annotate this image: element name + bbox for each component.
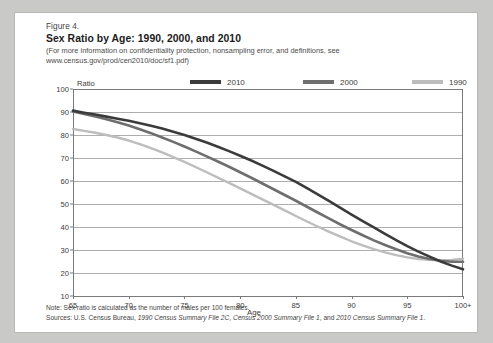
y-axis-title: Ratio [77, 79, 95, 88]
figure-note: Note: Sex ratio is calculated as the num… [46, 303, 466, 313]
legend-swatch-2010 [190, 80, 221, 83]
figure-card: Figure 4. Sex Ratio by Age: 1990, 2000, … [14, 12, 478, 333]
sources-prefix: Sources: U.S. Census Bureau, [46, 314, 138, 321]
figure-subtitle-line-1: (For more information on confidentiality… [46, 46, 446, 56]
figure-subtitle-line-2: www.census.gov/prod/cen2010/doc/sf1.pdf) [46, 56, 446, 66]
legend-label-2010: 2010 [227, 78, 245, 87]
x-axis-tickmark-90 [352, 296, 353, 299]
figure-notes: Note: Sex ratio is calculated as the num… [46, 303, 466, 322]
x-axis-tickmark-100+ [463, 296, 464, 299]
y-axis-tick-50: 50 [61, 200, 69, 209]
figure-subtitle: (For more information on confidentiality… [46, 46, 446, 65]
legend-label-1990: 1990 [449, 78, 467, 87]
y-axis-tick-10: 10 [61, 292, 69, 301]
x-axis-tickmark-75 [184, 296, 185, 299]
legend-item-1990: 1990 [412, 76, 467, 88]
series-line-1990 [73, 129, 463, 260]
y-axis-tick-100: 100 [56, 85, 69, 94]
x-axis-tickmark-80 [240, 296, 241, 299]
y-axis-tick-60: 60 [61, 177, 69, 186]
chart-legend: 201020001990 [190, 76, 480, 90]
y-axis-tick-80: 80 [61, 131, 69, 140]
legend-swatch-1990 [412, 80, 443, 83]
series-line-2010 [73, 111, 463, 270]
figure-number: Figure 4. [46, 22, 79, 31]
legend-swatch-2000 [303, 80, 334, 83]
figure-title: Sex Ratio by Age: 1990, 2000, and 2010 [46, 33, 241, 44]
y-axis-tick-90: 90 [61, 108, 69, 117]
sources-item-3: 2010 Census Summary File 1 [336, 314, 423, 321]
x-axis-tickmark-70 [129, 296, 130, 299]
y-axis-tick-30: 30 [61, 246, 69, 255]
series-line-2000 [73, 112, 463, 262]
y-axis-tick-40: 40 [61, 223, 69, 232]
sources-suffix: . [423, 314, 425, 321]
x-axis-tickmark-65 [73, 296, 74, 299]
gridline-y-10 [73, 296, 463, 297]
y-axis-tick-20: 20 [61, 269, 69, 278]
sources-sep-2: , and [320, 314, 337, 321]
legend-item-2010: 2010 [190, 76, 245, 88]
sources-item-2: Census 2000 Summary File 1 [233, 314, 320, 321]
legend-item-2000: 2000 [303, 76, 358, 88]
series-layer [73, 89, 463, 296]
chart-plot-area: 10203040506070809010065707580859095100+ [73, 89, 463, 296]
y-axis-tick-70: 70 [61, 154, 69, 163]
figure-sources: Sources: U.S. Census Bureau, 1990 Census… [46, 313, 466, 323]
legend-label-2000: 2000 [340, 78, 358, 87]
x-axis-tickmark-95 [407, 296, 408, 299]
x-axis-tickmark-85 [296, 296, 297, 299]
sources-item-1: 1990 Census Summary File 2C [138, 314, 230, 321]
